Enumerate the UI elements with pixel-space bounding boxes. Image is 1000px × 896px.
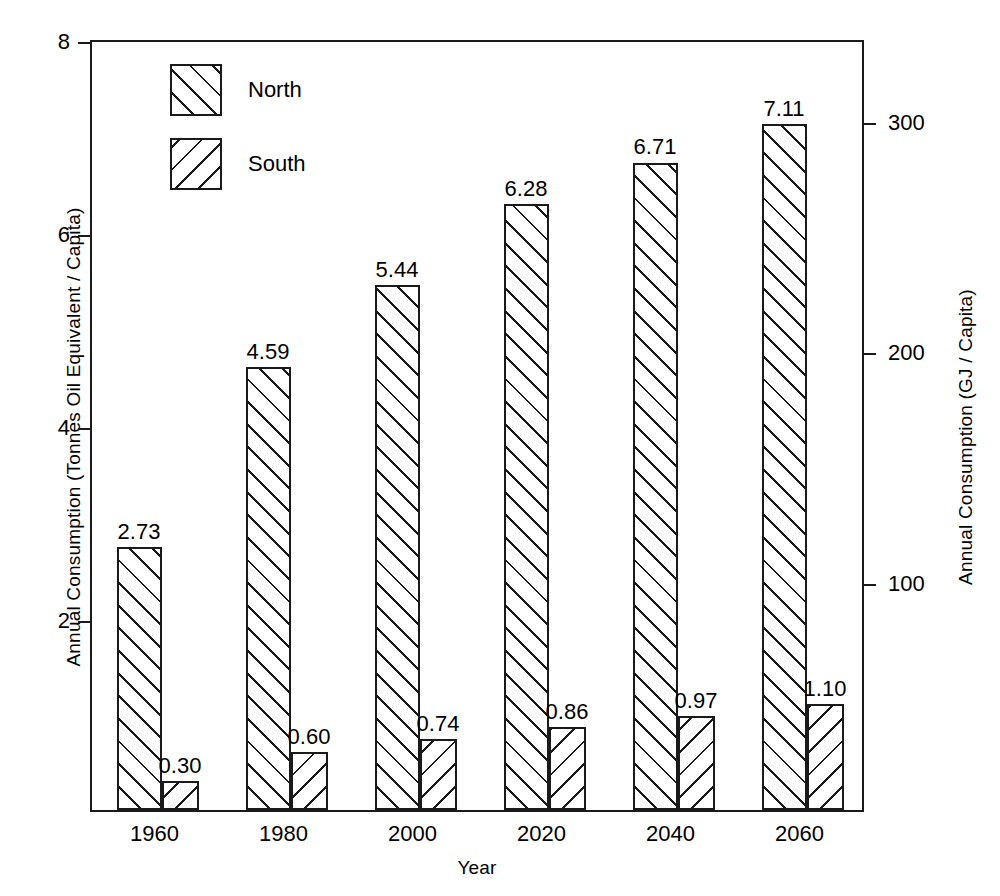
bar-value-label: 1.10 <box>804 676 847 702</box>
x-axis-tick-label: 2060 <box>775 821 824 847</box>
y-axis-right-tick <box>862 584 876 586</box>
y-axis-left-tick-label: 2 <box>30 608 70 634</box>
legend-label-south: South <box>248 151 306 177</box>
y-axis-left-tick-label: 6 <box>30 222 70 248</box>
y-axis-right-tick <box>862 123 876 125</box>
bar-south <box>420 739 457 810</box>
y-axis-right-tick-label: 200 <box>888 340 948 366</box>
bar-north <box>633 163 678 811</box>
y-axis-right-title: Annual Consumption (GJ / Capita) <box>955 177 977 697</box>
bar-value-label: 2.73 <box>118 519 161 545</box>
bar-value-label: 0.30 <box>159 753 202 779</box>
bar-value-label: 6.71 <box>634 134 677 160</box>
x-axis-tick-label: 1980 <box>259 821 308 847</box>
bar-north <box>117 547 162 810</box>
legend-item-south: South <box>170 138 306 190</box>
legend-item-north: North <box>170 64 306 116</box>
y-axis-left-tick <box>78 42 92 44</box>
bar-value-label: 0.86 <box>546 699 589 725</box>
bar-south <box>162 781 199 810</box>
y-axis-left-tick <box>78 428 92 430</box>
bar-south <box>291 752 328 810</box>
bar-north <box>375 285 420 810</box>
plot-area: 2468 100200300 2.730.304.590.605.440.746… <box>90 40 864 812</box>
y-axis-right-tick <box>862 353 876 355</box>
legend-swatch-north-icon <box>170 64 222 116</box>
bar-value-label: 5.44 <box>376 257 419 283</box>
bar-value-label: 0.97 <box>675 688 718 714</box>
bar-south <box>807 704 844 810</box>
bar-value-label: 0.74 <box>417 711 460 737</box>
x-axis-tick-label: 2020 <box>517 821 566 847</box>
y-axis-left-tick-label: 8 <box>30 29 70 55</box>
x-axis-tick-label: 2000 <box>388 821 437 847</box>
bar-north <box>504 204 549 810</box>
x-axis-tick-label: 1960 <box>130 821 179 847</box>
x-axis-title: Year <box>90 857 864 879</box>
legend-label-north: North <box>248 77 302 103</box>
bar-south <box>549 727 586 810</box>
x-axis-tick-label: 2040 <box>646 821 695 847</box>
y-axis-right-tick-label: 100 <box>888 571 948 597</box>
chart-legend: North South <box>170 64 306 212</box>
bar-value-label: 0.60 <box>288 724 331 750</box>
bar-value-label: 4.59 <box>247 339 290 365</box>
bar-value-label: 6.28 <box>505 176 548 202</box>
y-axis-left-tick-label: 4 <box>30 415 70 441</box>
bar-south <box>678 716 715 810</box>
bar-value-label: 7.11 <box>763 96 804 122</box>
y-axis-right-tick-label: 300 <box>888 110 948 136</box>
legend-swatch-south-icon <box>170 138 222 190</box>
y-axis-left-tick <box>78 621 92 623</box>
bar-north <box>762 124 807 810</box>
bar-north <box>246 367 291 810</box>
y-axis-left-tick <box>78 235 92 237</box>
bar-chart: Annual Consumption (Tonnes Oil Equivalen… <box>0 0 1000 896</box>
